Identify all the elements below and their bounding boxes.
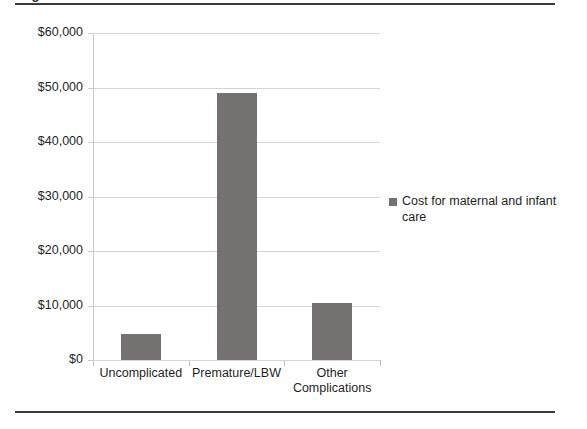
y-tick-label: $60,000 (38, 26, 83, 39)
plot-area (93, 33, 380, 360)
y-tick-label: $40,000 (38, 135, 83, 148)
bar (217, 93, 257, 360)
y-tick-label: $20,000 (38, 244, 83, 257)
bar-chart: $0$10,000$20,000$30,000$40,000$50,000$60… (0, 0, 587, 429)
y-tick-label: $50,000 (38, 81, 83, 94)
bar (121, 334, 161, 360)
y-tick-label: $0 (69, 353, 83, 366)
y-tick-label: $30,000 (38, 190, 83, 203)
y-tick-label: $10,000 (38, 299, 83, 312)
x-tick-label: OtherComplications (272, 366, 392, 396)
legend-item-label: Cost for maternal and infant care (402, 193, 562, 225)
figure-bottom-rule (15, 411, 555, 413)
gridline (93, 360, 380, 361)
bar (312, 303, 352, 360)
legend-color-swatch (389, 198, 397, 206)
legend-item: Cost for maternal and infant care (389, 193, 574, 225)
chart-legend: Cost for maternal and infant care (389, 193, 574, 225)
